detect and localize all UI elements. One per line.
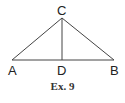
point-label-a: A — [8, 64, 17, 77]
point-label-d: D — [57, 64, 66, 77]
point-label-b: B — [110, 64, 119, 77]
point-label-c: C — [57, 4, 66, 17]
segment-cb — [62, 18, 114, 60]
figure-caption: Ex. 9 — [0, 81, 125, 92]
segment-ac — [12, 18, 62, 60]
